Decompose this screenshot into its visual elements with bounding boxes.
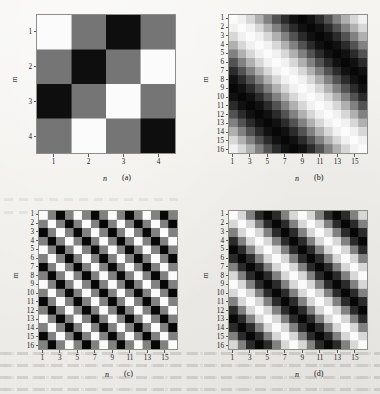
y-tick-label-c: 4	[16, 237, 34, 245]
y-tick-label-d: 3	[206, 228, 224, 236]
panel-caption-a: (a)	[122, 173, 131, 182]
y-tickmark-d	[226, 310, 229, 311]
y-tick-label-b: 4	[206, 41, 224, 49]
y-tick-label-b: 1	[206, 14, 224, 22]
x-tickmark-a	[53, 154, 54, 157]
x-tick-label-d: 11	[312, 354, 328, 362]
y-tickmark-b	[226, 44, 229, 45]
y-tickmark-c	[36, 319, 39, 320]
y-tick-label-d: 6	[206, 254, 224, 262]
y-tickmark-d	[226, 345, 229, 346]
axis-title-x-b: n	[295, 174, 299, 183]
y-tickmark-c	[36, 266, 39, 267]
x-tickmark-d	[337, 350, 338, 353]
x-tick-label-b: 3	[242, 158, 258, 166]
axis-title-x-d: n	[295, 370, 299, 379]
axis-title-y-a: m	[10, 75, 19, 85]
x-tickmark-c	[59, 350, 60, 353]
y-tickmark-c	[36, 231, 39, 232]
y-tick-label-d: 10	[206, 289, 224, 297]
y-tickmark-c	[36, 214, 39, 215]
y-tick-label-c: 9	[16, 280, 34, 288]
y-tick-label-c: 7	[16, 263, 34, 271]
y-tick-label-b: 12	[206, 111, 224, 119]
y-tickmark-d	[226, 328, 229, 329]
y-tickmark-c	[36, 336, 39, 337]
y-tick-label-d: 2	[206, 219, 224, 227]
y-tickmark-a	[34, 66, 37, 67]
y-tickmark-c	[36, 249, 39, 250]
y-tick-label-d: 16	[206, 342, 224, 350]
y-tickmark-a	[34, 31, 37, 32]
y-tick-label-b: 3	[206, 32, 224, 40]
y-tick-label-d: 13	[206, 315, 224, 323]
y-tick-label-d: 12	[206, 307, 224, 315]
y-tick-label-c: 16	[16, 342, 34, 350]
y-tickmark-d	[226, 266, 229, 267]
y-tickmark-c	[36, 258, 39, 259]
x-tickmark-c	[77, 350, 78, 353]
x-tickmark-d	[354, 350, 355, 353]
x-tickmark-c	[112, 350, 113, 353]
x-tickmark-d	[319, 350, 320, 353]
x-tickmark-c	[42, 350, 43, 353]
y-tickmark-b	[226, 79, 229, 80]
y-tickmark-d	[226, 319, 229, 320]
y-tick-label-c: 10	[16, 289, 34, 297]
y-tick-label-b: 13	[206, 119, 224, 127]
x-tick-label-b: 7	[277, 158, 293, 166]
y-tick-label-b: 11	[206, 102, 224, 110]
x-tick-label-d: 1	[224, 354, 240, 362]
y-tickmark-a	[34, 136, 37, 137]
y-tickmark-b	[226, 132, 229, 133]
axis-title-x-a: n	[103, 174, 107, 183]
y-tick-label-c: 13	[16, 315, 34, 323]
y-tick-label-b: 15	[206, 137, 224, 145]
y-tick-label-b: 8	[206, 76, 224, 84]
x-tick-label-c: 9	[104, 354, 120, 362]
plot-area-b	[228, 14, 368, 154]
y-tick-label-a: 4	[14, 133, 32, 141]
x-tickmark-d	[249, 350, 250, 353]
y-tickmark-b	[226, 105, 229, 106]
y-tickmark-d	[226, 301, 229, 302]
y-tickmark-c	[36, 223, 39, 224]
x-tick-label-c: 15	[157, 354, 173, 362]
y-tickmark-d	[226, 336, 229, 337]
x-tickmark-a	[158, 154, 159, 157]
y-tickmark-b	[226, 123, 229, 124]
x-tick-label-a: 4	[151, 158, 167, 166]
x-tickmark-b	[319, 154, 320, 157]
plot-area-a	[36, 14, 176, 154]
y-tick-label-a: 2	[14, 63, 32, 71]
y-tick-label-d: 15	[206, 333, 224, 341]
x-tick-label-d: 13	[329, 354, 345, 362]
panel-caption-c: (c)	[124, 369, 133, 378]
panel-caption-b: (b)	[314, 173, 323, 182]
x-tickmark-d	[302, 350, 303, 353]
heatmap-image-c	[39, 211, 177, 349]
y-tick-label-c: 6	[16, 254, 34, 262]
x-tick-label-c: 11	[122, 354, 138, 362]
y-tickmark-c	[36, 240, 39, 241]
y-tick-label-c: 12	[16, 307, 34, 315]
x-tick-label-b: 1	[224, 158, 240, 166]
x-tickmark-c	[147, 350, 148, 353]
y-tickmark-d	[226, 275, 229, 276]
y-tick-label-c: 15	[16, 333, 34, 341]
x-tickmark-b	[337, 154, 338, 157]
x-tick-label-c: 13	[139, 354, 155, 362]
x-tick-label-d: 3	[242, 354, 258, 362]
y-tick-label-d: 1	[206, 210, 224, 218]
y-tick-label-b: 10	[206, 93, 224, 101]
y-tickmark-d	[226, 249, 229, 250]
x-tickmark-b	[249, 154, 250, 157]
x-tick-label-b: 13	[329, 158, 345, 166]
y-tickmark-b	[226, 97, 229, 98]
y-tick-label-c: 8	[16, 272, 34, 280]
y-tick-label-b: 9	[206, 84, 224, 92]
y-tickmark-c	[36, 293, 39, 294]
y-tick-label-b: 6	[206, 58, 224, 66]
y-tickmark-b	[226, 149, 229, 150]
heatmap-image-d	[229, 211, 367, 349]
